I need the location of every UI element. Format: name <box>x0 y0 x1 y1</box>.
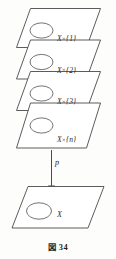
sheet-label-3: X×{3} <box>57 98 76 106</box>
figure-caption-number: 34 <box>56 243 68 252</box>
sheet-label-2-fiber: {2} <box>66 66 76 75</box>
projection-map-label: p <box>55 159 59 167</box>
base-space-label: X <box>57 211 62 219</box>
sheet-label-2: X×{2} <box>57 67 76 75</box>
figure-caption-word: 図 <box>48 242 57 252</box>
sheet-label-n-fiber: {n} <box>66 135 76 144</box>
figure-container: X×{1} X×{2} X×{3} X×{n} p X 図34 <box>0 0 116 259</box>
base-space-plane <box>12 187 104 229</box>
sheet-label-1-fiber: {1} <box>66 34 76 43</box>
sheet-label-3-fiber: {3} <box>66 97 76 106</box>
sheet-label-n: X×{n} <box>57 136 76 144</box>
figure-caption: 図34 <box>0 240 116 252</box>
sheet-label-1: X×{1} <box>57 35 76 43</box>
